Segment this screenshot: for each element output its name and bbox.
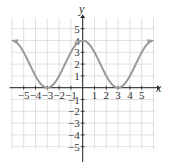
x-axis-label: x bbox=[155, 81, 162, 95]
y-axis-label: y bbox=[78, 2, 85, 16]
x-tick-label: −5 bbox=[18, 89, 30, 101]
x-tick-labels: −5−4−3−2−112345 bbox=[18, 89, 145, 101]
y-tick-label: −2 bbox=[68, 105, 80, 117]
y-tick-label: −5 bbox=[68, 141, 80, 153]
y-tick-label: 2 bbox=[74, 58, 80, 70]
x-tick-label: −4 bbox=[30, 89, 42, 101]
x-tick-label: −3 bbox=[41, 89, 53, 101]
x-tick-label: 2 bbox=[104, 89, 110, 101]
x-tick-label: −2 bbox=[53, 89, 65, 101]
y-tick-label: −3 bbox=[68, 117, 80, 129]
x-tick-label: 3 bbox=[115, 89, 121, 101]
x-tick-label: 1 bbox=[92, 89, 98, 101]
y-tick-label: 3 bbox=[74, 46, 80, 58]
x-tick-label: 5 bbox=[139, 89, 145, 101]
y-tick-label: −1 bbox=[68, 94, 80, 106]
y-tick-label: −4 bbox=[68, 129, 80, 141]
function-graph: −5−4−3−2−112345 54321−1−2−3−4−5 x y bbox=[0, 0, 169, 168]
x-tick-label: 4 bbox=[127, 89, 133, 101]
y-tick-label: 1 bbox=[74, 70, 80, 82]
y-tick-label: 5 bbox=[74, 23, 80, 35]
